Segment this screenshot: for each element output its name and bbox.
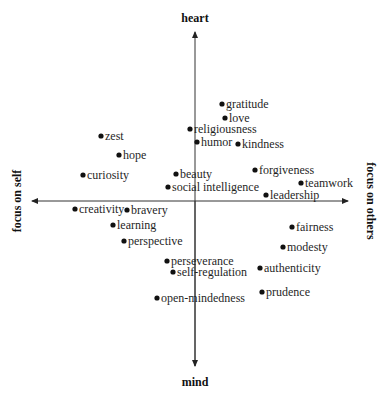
point-label: social intelligence bbox=[172, 180, 259, 194]
point-marker-icon bbox=[219, 101, 224, 106]
point-label: creativity bbox=[79, 202, 124, 216]
strength-point: perspective bbox=[121, 234, 182, 248]
point-marker-icon bbox=[165, 184, 170, 189]
point-marker-icon bbox=[164, 258, 169, 263]
point-marker-icon bbox=[259, 289, 264, 294]
strength-point: bravery bbox=[124, 203, 167, 217]
axis-title-mind: mind bbox=[182, 375, 209, 389]
strength-point: social intelligence bbox=[165, 180, 259, 194]
strength-point: curiosity bbox=[80, 168, 129, 182]
strength-point: leadership bbox=[263, 188, 319, 202]
character-strengths-quadrant-chart: heart mind focus on self focus on others… bbox=[0, 0, 392, 398]
point-label: curiosity bbox=[87, 168, 129, 182]
point-label: religiousness bbox=[194, 122, 257, 136]
point-marker-icon bbox=[173, 171, 178, 176]
point-label: kindness bbox=[242, 137, 284, 151]
strength-point: beauty bbox=[173, 167, 212, 181]
strength-point: kindness bbox=[235, 137, 284, 151]
point-label: leadership bbox=[270, 188, 319, 202]
strength-point: learning bbox=[110, 218, 156, 232]
point-marker-icon bbox=[121, 238, 126, 243]
strength-point: authenticity bbox=[257, 261, 320, 275]
point-label: forgiveness bbox=[259, 163, 314, 177]
point-label: authenticity bbox=[264, 261, 321, 275]
point-label: beauty bbox=[180, 167, 212, 181]
point-label: bravery bbox=[131, 203, 168, 217]
point-label: gratitude bbox=[226, 97, 269, 111]
point-marker-icon bbox=[298, 180, 303, 185]
point-marker-icon bbox=[110, 222, 115, 227]
point-marker-icon bbox=[289, 224, 294, 229]
point-label: zest bbox=[105, 129, 124, 143]
point-marker-icon bbox=[235, 141, 240, 146]
strength-point: religiousness bbox=[187, 122, 257, 136]
point-marker-icon bbox=[263, 192, 268, 197]
strength-point: prudence bbox=[259, 285, 310, 299]
strength-point: hope bbox=[116, 148, 146, 162]
point-label: modesty bbox=[287, 240, 328, 254]
strength-point: open-mindedness bbox=[154, 291, 245, 305]
axis-title-focus-on-self: focus on self bbox=[10, 169, 24, 233]
point-label: learning bbox=[117, 218, 156, 232]
point-marker-icon bbox=[98, 133, 103, 138]
point-marker-icon bbox=[187, 126, 192, 131]
point-marker-icon bbox=[280, 244, 285, 249]
point-marker-icon bbox=[194, 139, 199, 144]
axis-title-heart: heart bbox=[181, 11, 208, 25]
axis-title-focus-on-others: focus on others bbox=[364, 162, 378, 240]
point-marker-icon bbox=[222, 115, 227, 120]
point-label: open-mindedness bbox=[161, 291, 245, 305]
point-label: self-regulation bbox=[177, 265, 247, 279]
point-marker-icon bbox=[252, 167, 257, 172]
point-marker-icon bbox=[80, 172, 85, 177]
strength-point: fairness bbox=[289, 220, 333, 234]
strength-point: modesty bbox=[280, 240, 327, 254]
strength-point: creativity bbox=[72, 202, 124, 216]
point-label: prudence bbox=[266, 285, 310, 299]
strength-point: humor bbox=[194, 135, 232, 149]
point-label: perspective bbox=[128, 234, 183, 248]
strength-point: zest bbox=[98, 129, 124, 143]
point-label: humor bbox=[201, 135, 232, 149]
point-marker-icon bbox=[72, 206, 77, 211]
point-marker-icon bbox=[154, 295, 159, 300]
point-label: hope bbox=[123, 148, 146, 162]
point-marker-icon bbox=[170, 269, 175, 274]
point-marker-icon bbox=[257, 265, 262, 270]
point-label: fairness bbox=[296, 220, 334, 234]
point-marker-icon bbox=[124, 207, 129, 212]
strength-point: self-regulation bbox=[170, 265, 247, 279]
strength-point: forgiveness bbox=[252, 163, 314, 177]
strength-point: gratitude bbox=[219, 97, 268, 111]
point-marker-icon bbox=[116, 152, 121, 157]
